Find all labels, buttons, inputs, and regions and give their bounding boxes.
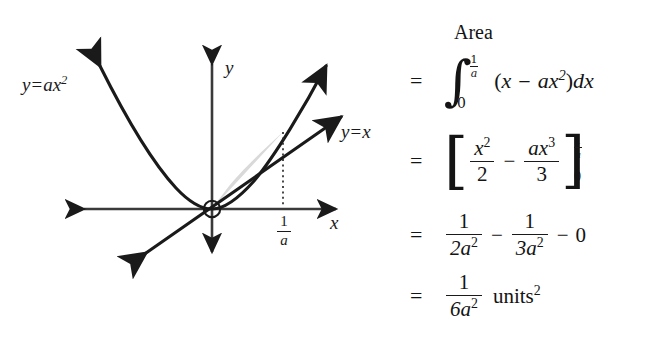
- x-tick-denominator: a: [272, 232, 296, 249]
- fraction-2-numerator-exponent: 3: [548, 135, 555, 150]
- upper-limit-denominator: a: [470, 68, 478, 79]
- fraction-1-denominator: 2: [470, 162, 494, 186]
- fraction-2-numerator: ax3: [524, 136, 559, 161]
- line3-fraction-2: 1 3a2: [512, 210, 548, 259]
- derivation-line-2: = [ x2 2 − ax3 3 ]: [410, 118, 656, 204]
- bracketed-antiderivative: [ x2 2 − ax3 3 ]: [444, 135, 585, 187]
- integrand-minus: −: [511, 69, 537, 94]
- graph-svg: [0, 0, 400, 342]
- line-label-expr: x: [362, 121, 370, 142]
- line4-fraction-denominator-exponent: 2: [471, 296, 478, 311]
- bracket-lower-limit: 0: [574, 169, 581, 185]
- integral-upper-limit: 1 a: [470, 54, 478, 79]
- fraction-2-numerator-base: ax: [528, 136, 548, 160]
- line3-operator-2: −: [550, 223, 576, 248]
- units-label: units2: [493, 283, 541, 309]
- units-text: units: [493, 284, 534, 308]
- x-axis-label: x: [330, 213, 338, 232]
- line3-fraction-1-denominator-exponent: 2: [471, 235, 478, 250]
- y-axis-label: y: [225, 58, 233, 77]
- line3-fraction-1: 1 2a2: [446, 210, 482, 259]
- derivation-line-1: = ∫ 1 a 0 (x−ax2)dx: [410, 44, 656, 118]
- fraction-1-numerator-exponent: 2: [484, 135, 491, 150]
- line4-result-fraction: 1 6a2: [446, 271, 482, 320]
- curve-label-equals: =: [30, 74, 43, 95]
- fraction-1-numerator: x2: [470, 136, 494, 161]
- upper-limit-fraction: 1 a: [470, 54, 478, 79]
- derivation-title-row: Area: [410, 14, 656, 44]
- bracket-upper-limit: 1 a: [574, 135, 582, 160]
- fraction-2-denominator: 3: [524, 162, 559, 186]
- line3-fraction-2-denominator-exponent: 2: [537, 235, 544, 250]
- upper-limit-numerator: 1: [470, 54, 478, 65]
- antiderivative-fraction-2: ax3 3: [524, 136, 559, 185]
- integrand-exponent: 2: [558, 67, 565, 83]
- shaded-area-region: [212, 132, 283, 209]
- integrand-term: ax: [538, 69, 559, 94]
- line3-operator-1: −: [484, 223, 510, 248]
- line3-fraction-1-numerator: 1: [446, 210, 482, 234]
- integrand: (x−ax2)dx: [494, 67, 594, 94]
- fraction-1-numerator-base: x: [474, 136, 483, 160]
- line-label-equals: =: [349, 121, 362, 142]
- antiderivative-fraction-1: x2 2: [470, 136, 494, 185]
- line3-fraction-1-denominator-base: 2a: [450, 236, 471, 260]
- derivation-line-3: = 1 2a2 − 1 3a2 − 0: [410, 204, 656, 266]
- figure-and-derivation: y=ax2 y=x y x 1 a Area = ∫: [0, 0, 656, 342]
- bracket-upper-denominator: a: [574, 149, 582, 160]
- line3-fraction-2-denominator: 3a2: [512, 235, 548, 260]
- derivation-line-4: = 1 6a2 units2: [410, 266, 656, 326]
- derivation-panel: Area = ∫ 1 a 0: [400, 0, 656, 342]
- integral-lower-limit: 0: [457, 98, 466, 110]
- integral-sign: ∫ 1 a 0: [444, 58, 472, 104]
- line4-fraction-numerator: 1: [446, 271, 482, 295]
- line4-fraction-denominator: 6a2: [446, 296, 482, 321]
- bracket-close-with-limits: ] 1 a 0: [561, 135, 585, 187]
- derivation-rows: Area = ∫ 1 a 0: [410, 14, 656, 326]
- bracket-open: [: [444, 136, 468, 187]
- line3-zero: 0: [576, 223, 587, 248]
- bracket-upper-numerator: 1: [574, 135, 582, 146]
- x-tick-numerator: 1: [272, 214, 296, 231]
- integrand-close-paren: ): [566, 69, 573, 94]
- line3-fraction-1-denominator: 2a2: [446, 235, 482, 260]
- differential-dx: dx: [573, 69, 594, 94]
- area-title: Area: [454, 21, 493, 44]
- curve-label-exponent: 2: [61, 73, 67, 87]
- bracket-upper-fraction: 1 a: [574, 135, 582, 160]
- units-exponent: 2: [534, 283, 541, 298]
- line3-fraction-2-numerator: 1: [512, 210, 548, 234]
- line1-relation: =: [410, 68, 444, 94]
- x-tick-label-1-over-a: 1 a: [272, 214, 296, 249]
- line4-relation: =: [410, 283, 444, 309]
- integrand-x: x: [501, 69, 511, 94]
- integral-expression: ∫ 1 a 0 (x−ax2)dx: [444, 58, 594, 104]
- line3-relation: =: [410, 222, 444, 248]
- line2-relation: =: [410, 148, 444, 174]
- line4-fraction-denominator-base: 6a: [450, 297, 471, 321]
- graph-figure: y=ax2 y=x y x 1 a: [0, 0, 400, 342]
- line3-fraction-2-denominator-base: 3a: [516, 236, 537, 260]
- curve-label-expr: ax: [43, 74, 61, 95]
- line2-operator: −: [496, 149, 522, 174]
- curve-label-parabola: y=ax2: [22, 74, 67, 94]
- curve-label-line: y=x: [341, 122, 371, 141]
